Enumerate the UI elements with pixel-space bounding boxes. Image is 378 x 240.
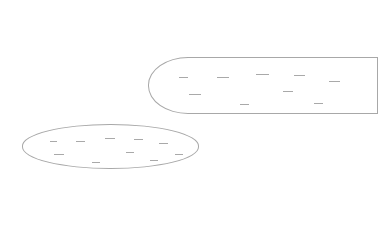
lower-shape-label-mark bbox=[150, 160, 158, 161]
upper-shape-label-mark bbox=[217, 77, 229, 78]
upper-shape-label-mark bbox=[283, 91, 293, 92]
upper-shape-label-mark bbox=[179, 77, 188, 78]
upper-shape-label-mark bbox=[256, 74, 269, 75]
upper-shape-label-mark bbox=[314, 103, 323, 104]
upper-pill-shape bbox=[148, 57, 378, 114]
lower-shape-label-mark bbox=[159, 143, 168, 144]
lower-shape-label-mark bbox=[105, 138, 115, 139]
upper-shape-label-mark bbox=[240, 104, 249, 105]
lower-shape-label-mark bbox=[50, 141, 57, 142]
upper-shape-label-mark bbox=[294, 75, 305, 76]
lower-shape-label-mark bbox=[126, 152, 134, 153]
lower-shape-label-mark bbox=[92, 162, 100, 163]
upper-shape-label-mark bbox=[189, 94, 201, 95]
lower-shape-label-mark bbox=[54, 154, 64, 155]
lower-shape-label-mark bbox=[175, 154, 183, 155]
lower-shape-label-mark bbox=[134, 139, 143, 140]
lower-ellipse-shape bbox=[22, 124, 199, 169]
lower-shape-label-mark bbox=[76, 141, 85, 142]
upper-shape-label-mark bbox=[329, 81, 340, 82]
